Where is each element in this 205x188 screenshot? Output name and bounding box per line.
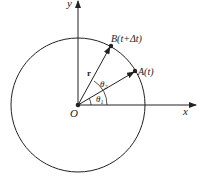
y-axis-label: y [66, 0, 72, 9]
point-b [109, 44, 113, 48]
circular-motion-diagram: y x O A(t) B(t+Δt) r θ2 θ1 [0, 0, 205, 188]
theta1-arc [89, 98, 91, 105]
point-a [133, 69, 137, 73]
point-a-label: A(t) [137, 66, 154, 78]
point-b-label: B(t+Δt) [111, 33, 143, 45]
vector-r-label: r [87, 68, 91, 78]
origin-label: O [70, 107, 78, 119]
theta2-label: θ2 [100, 79, 107, 90]
x-axis-label: x [182, 105, 188, 117]
vector-to-b [78, 47, 110, 105]
theta1-label: θ1 [96, 94, 103, 105]
